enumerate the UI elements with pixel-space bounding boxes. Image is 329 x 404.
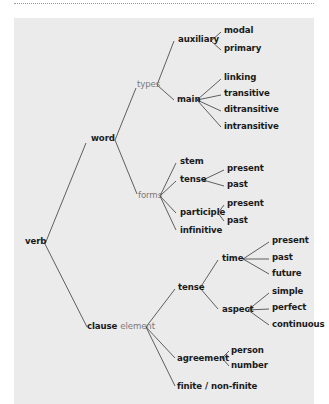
node-main: main	[177, 94, 200, 104]
node-ditransitive: ditransitive	[224, 104, 279, 114]
node-person: person	[231, 345, 264, 355]
node-time-past: past	[272, 252, 293, 262]
node-clause-suffix: element	[120, 321, 155, 331]
node-stem: stem	[180, 156, 204, 166]
node-forms-tense-past: past	[227, 179, 248, 189]
node-aspect: aspect	[222, 304, 254, 314]
node-primary: primary	[224, 43, 261, 53]
node-continuous: continuous	[272, 319, 325, 329]
node-linking: linking	[224, 72, 256, 82]
node-forms-tense-present: present	[227, 163, 264, 173]
node-time-present: present	[272, 235, 309, 245]
node-clause-tense: tense	[178, 282, 205, 292]
node-agreement: agreement	[177, 353, 229, 363]
node-clause: clause	[87, 321, 117, 331]
node-time: time	[222, 253, 243, 263]
node-modal: modal	[224, 25, 253, 35]
node-participle: participle	[180, 207, 225, 217]
node-time-future: future	[272, 268, 302, 278]
node-participle-present: present	[227, 198, 264, 208]
node-transitive: transitive	[224, 88, 270, 98]
node-participle-past: past	[227, 215, 248, 225]
node-infinitive: infinitive	[180, 225, 222, 235]
node-simple: simple	[272, 286, 303, 296]
node-types: types	[137, 79, 160, 89]
node-word: word	[91, 133, 115, 143]
node-verb: verb	[25, 236, 46, 246]
node-clause-element: clause element	[87, 321, 155, 331]
node-number: number	[231, 360, 268, 370]
node-forms-tense: tense	[180, 174, 207, 184]
tree-connectors	[0, 0, 329, 404]
node-auxiliary: auxiliary	[178, 34, 219, 44]
node-finite-nonfinite: finite / non-finite	[177, 381, 257, 391]
node-forms: forms	[138, 190, 162, 200]
node-perfect: perfect	[272, 302, 306, 312]
node-intransitive: intransitive	[224, 121, 279, 131]
